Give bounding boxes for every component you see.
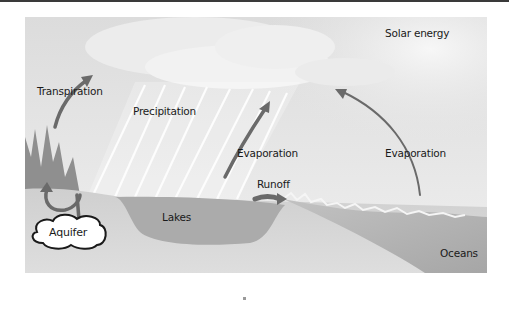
top-border xyxy=(0,0,509,2)
label-precipitation: Precipitation xyxy=(133,105,196,117)
label-solar-energy: Solar energy xyxy=(385,27,449,39)
infiltration-arrow xyxy=(77,195,79,220)
label-aquifer: Aquifer xyxy=(49,226,87,239)
label-evaporation-ocean: Evaporation xyxy=(385,147,446,159)
water-cycle-diagram: Solar energy Transpiration Precipitation… xyxy=(25,17,487,273)
runoff-arrow xyxy=(255,197,280,199)
label-evaporation-lake: Evaporation xyxy=(237,147,298,159)
label-runoff: Runoff xyxy=(257,178,290,190)
page-dot xyxy=(243,297,246,300)
diagram-illustration xyxy=(25,17,487,273)
label-lakes: Lakes xyxy=(162,211,191,223)
label-transpiration: Transpiration xyxy=(37,85,103,97)
label-oceans: Oceans xyxy=(440,247,478,259)
